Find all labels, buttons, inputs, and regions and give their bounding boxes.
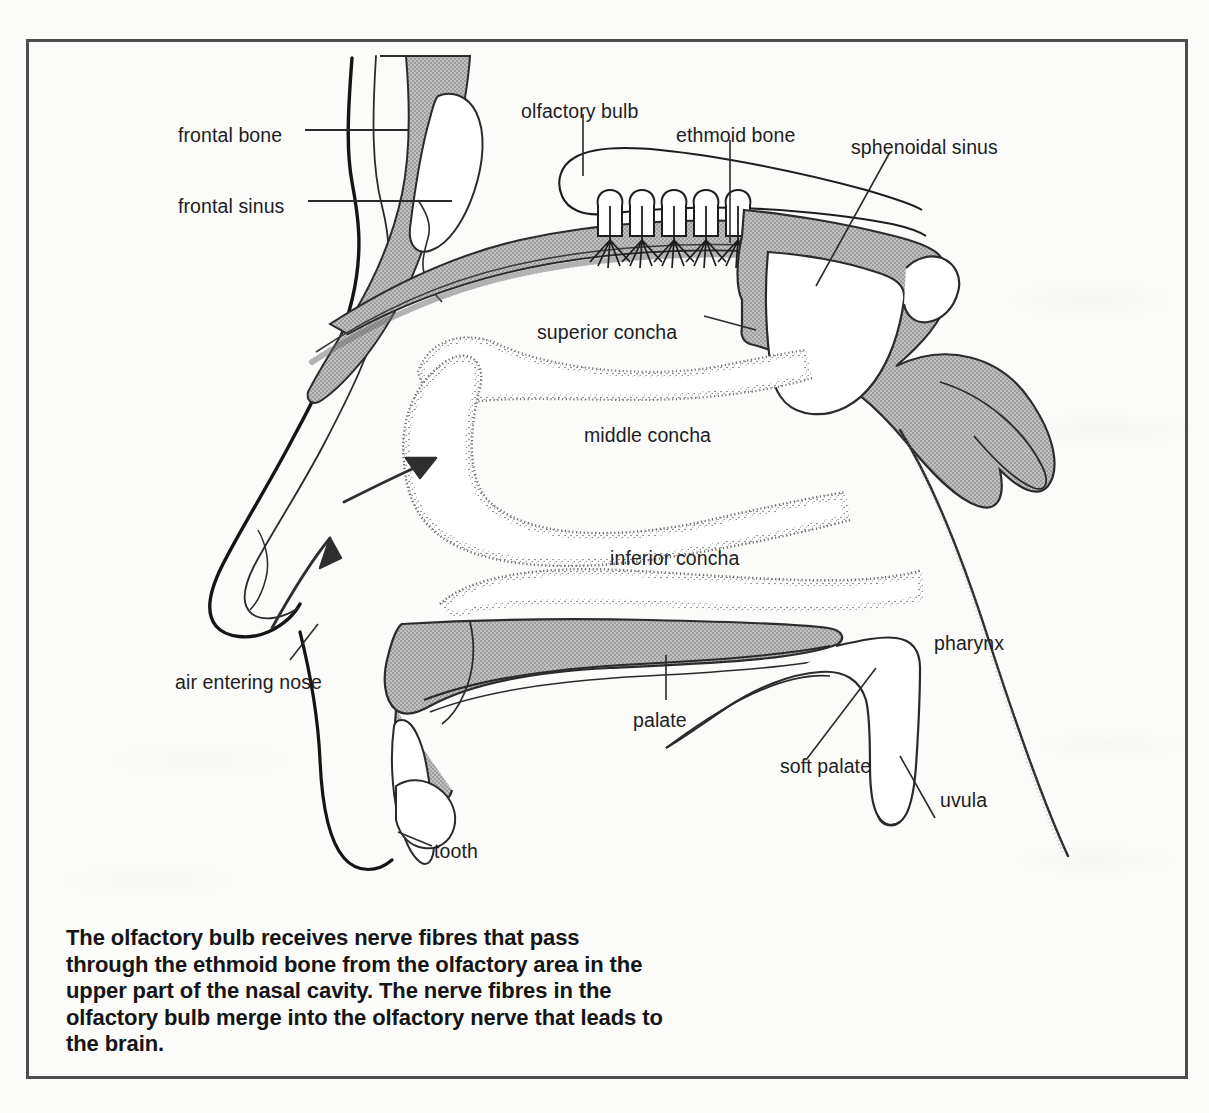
label-middle-concha: middle concha: [584, 424, 711, 447]
label-sphenoidal-sinus: sphenoidal sinus: [851, 136, 998, 159]
figure-page: frontal bone frontal sinus olfactory bul…: [0, 0, 1209, 1113]
figure-caption: The olfactory bulb receives nerve fibres…: [66, 925, 666, 1058]
label-frontal-sinus: frontal sinus: [178, 195, 284, 218]
label-superior-concha: superior concha: [537, 321, 677, 344]
label-soft-palate: soft palate: [780, 755, 871, 778]
label-tooth: tooth: [434, 840, 478, 863]
label-palate: palate: [633, 709, 687, 732]
label-uvula: uvula: [940, 789, 987, 812]
label-frontal-bone: frontal bone: [178, 124, 282, 147]
label-inferior-concha: inferior concha: [610, 547, 739, 570]
label-olfactory-bulb: olfactory bulb: [521, 100, 638, 123]
label-pharynx: pharynx: [934, 632, 1004, 655]
label-ethmoid-bone: ethmoid bone: [676, 124, 795, 147]
label-air-entering-nose: air entering nose: [175, 671, 322, 694]
